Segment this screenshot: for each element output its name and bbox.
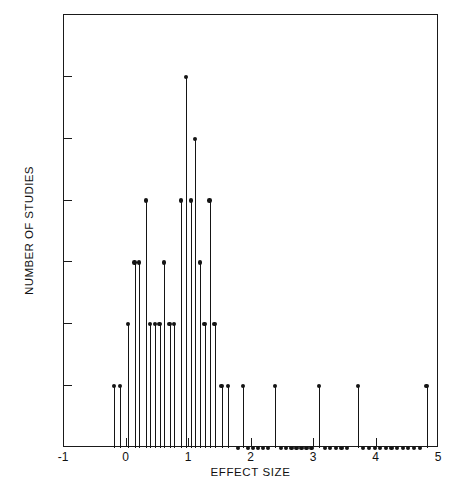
data-point-marker [328,446,332,450]
stem-line [191,201,192,448]
stem-line [228,386,229,448]
stem-line [358,386,359,448]
x-tick-label-2: 2 [236,450,266,464]
data-point-marker [241,384,245,388]
data-point-marker [395,446,399,450]
y-tick-3 [63,261,72,262]
stem-line [200,262,201,448]
stem-line [128,324,129,448]
data-point-marker [148,322,152,326]
data-point-marker [339,446,343,450]
data-point-marker [412,446,416,450]
x-tick-label-5: 5 [423,450,453,464]
plot-area [63,14,438,447]
x-tick-4 [376,438,377,447]
data-point-marker [334,446,338,450]
stem-line [222,386,223,448]
y-tick-6 [63,76,72,77]
data-point-marker [406,446,410,450]
data-point-marker [157,322,161,326]
stem-line [114,386,115,448]
data-point-marker [279,446,283,450]
data-point-marker [207,198,211,202]
data-point-marker [212,322,216,326]
stem-line [174,324,175,448]
data-point-marker [289,446,293,450]
data-point-marker [284,446,288,450]
stem-line [195,139,196,448]
stem-line [275,386,276,448]
data-point-marker [345,446,349,450]
stem-line [164,262,165,448]
data-point-marker [193,137,197,141]
stem-line [135,262,136,448]
y-tick-4 [63,200,72,201]
x-tick-3 [313,438,314,447]
data-point-marker [112,384,116,388]
y-axis-label: NUMBER OF STUDIES [20,14,38,447]
stem-line [120,386,121,448]
stem-line [210,201,211,448]
stem-line [146,201,147,448]
stem-line [170,324,171,448]
stem-line [427,386,428,448]
data-point-marker [126,322,130,326]
data-point-marker [273,384,277,388]
stem-line [205,324,206,448]
x-tick-label-3: 3 [298,450,328,464]
stem-plot-figure: NUMBER OF STUDIES 01234567 -1012345 EFFE… [0,0,458,492]
data-point-marker [317,384,321,388]
data-point-marker [172,322,176,326]
data-point-marker [179,198,183,202]
x-tick-1 [188,438,189,447]
stem-line [150,324,151,448]
stem-line [243,386,244,448]
stem-line [181,201,182,448]
data-point-marker [184,75,188,79]
x-tick-label-0: 0 [111,450,141,464]
y-tick-2 [63,323,72,324]
x-tick-label-1: 1 [173,450,203,464]
stem-line [139,262,140,448]
stem-line [155,324,156,448]
data-point-marker [266,446,270,450]
data-point-marker [202,322,206,326]
x-tick-label-4: 4 [361,450,391,464]
data-point-marker [162,260,166,264]
data-point-marker [219,384,223,388]
data-point-marker [137,260,141,264]
x-tick-0 [126,438,127,447]
stem-line [215,324,216,448]
data-point-marker [144,198,148,202]
data-point-marker [198,260,202,264]
x-tick-label--1: -1 [48,450,78,464]
data-point-marker [424,384,428,388]
stem-line [186,77,187,448]
data-point-marker [418,446,422,450]
x-tick-2 [251,438,252,447]
data-point-marker [356,384,360,388]
stem-line [160,324,161,448]
y-tick-5 [63,138,72,139]
x-axis-label: EFFECT SIZE [63,466,438,478]
stem-line [319,386,320,448]
data-point-marker [226,384,230,388]
data-point-marker [189,198,193,202]
data-point-marker [401,446,405,450]
data-point-marker [118,384,122,388]
y-tick-1 [63,385,72,386]
